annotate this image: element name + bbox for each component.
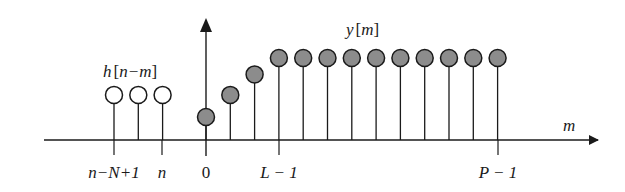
vertical-axis-arrowhead <box>200 18 212 32</box>
y-sequence <box>198 50 507 141</box>
y-sample-marker <box>246 66 263 83</box>
h-sample-marker <box>130 86 147 103</box>
y-sample-marker <box>368 50 385 67</box>
y-sample-marker <box>416 50 433 67</box>
y-sample-marker <box>222 86 239 103</box>
h-sequence <box>106 86 172 140</box>
tick-label-L-minus-1: L − 1 <box>259 163 298 182</box>
h-sample-marker <box>154 86 171 103</box>
y-sample-marker <box>465 50 482 67</box>
tick-label-P-minus-1: P − 1 <box>478 163 518 182</box>
y-sample-marker <box>198 109 215 126</box>
y-sample-marker <box>392 50 409 67</box>
h-sample-marker <box>106 86 123 103</box>
convolution-diagram: m h[n−m] y[m] n−N+1 n 0 L − 1 P − 1 <box>0 0 625 192</box>
tick-label-n: n <box>158 163 167 182</box>
y-label-func: y <box>344 20 354 39</box>
y-sample-marker <box>295 50 312 67</box>
y-sample-marker <box>489 50 506 67</box>
y-sample-marker <box>319 50 336 67</box>
h-label-arg: n−m <box>119 62 151 81</box>
h-label-func: h <box>103 62 112 81</box>
y-label: y[m] <box>344 20 379 39</box>
y-sample-marker <box>343 50 360 67</box>
y-label-close: ] <box>374 20 380 39</box>
tick-label-zero: 0 <box>202 163 211 182</box>
tick-label-n-minus-N-plus-1: n−N+1 <box>88 163 139 182</box>
y-sample-marker <box>270 50 287 67</box>
y-label-arg: m <box>361 20 373 39</box>
h-label-close: ] <box>151 62 157 81</box>
y-sample-marker <box>441 50 458 67</box>
h-label: h[n−m] <box>103 62 157 81</box>
axis-label-m: m <box>563 116 575 135</box>
